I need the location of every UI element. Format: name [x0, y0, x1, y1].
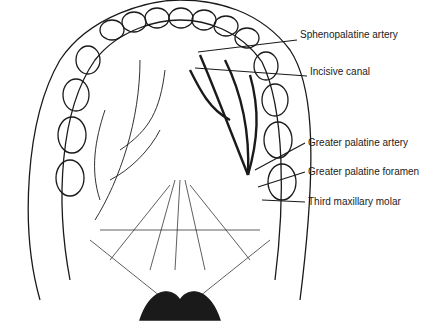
pharynx: [140, 292, 220, 320]
soft-palate-muscles: [90, 180, 270, 300]
label-greater-palatine-foramen: Greater palatine foramen: [308, 166, 419, 178]
jaw-outline: [28, 0, 311, 300]
palate-illustration: [0, 0, 443, 329]
leader-lines: [195, 40, 307, 202]
teeth-row: [56, 8, 296, 200]
label-greater-palatine-artery: Greater palatine artery: [308, 137, 408, 149]
label-third-maxillary-molar: Third maxillary molar: [308, 196, 401, 208]
label-incisive-canal: Incisive canal: [310, 66, 370, 78]
label-sphenopalatine-artery: Sphenopalatine artery: [300, 29, 398, 41]
nerve-branches-left: [95, 60, 165, 220]
palate-diagram: Sphenopalatine artery Incisive canal Gre…: [0, 0, 443, 329]
artery-branches-right: [190, 55, 257, 175]
